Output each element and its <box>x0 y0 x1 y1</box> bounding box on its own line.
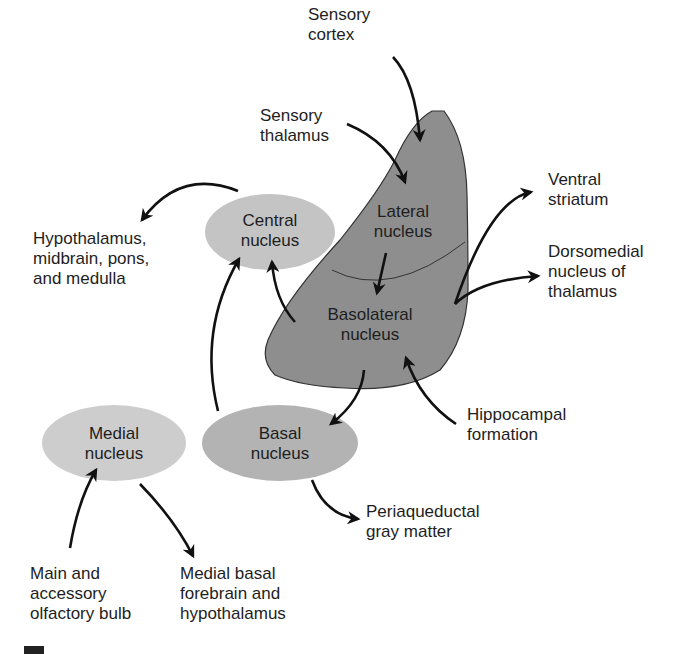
hippocampal-label: Hippocampal formation <box>467 405 566 445</box>
hypothalamus-label: Hypothalamus, midbrain, pons, and medull… <box>33 229 149 289</box>
olfactory-label: Main and accessory olfactory bulb <box>30 564 131 624</box>
central-nucleus-label: Central nucleus <box>225 211 315 251</box>
ventral-striatum-label: Ventral striatum <box>548 170 608 210</box>
medial-nucleus-label: Medial nucleus <box>69 424 159 464</box>
periaqueductal-label: Periaqueductal gray matter <box>366 502 479 542</box>
arrow-olfactory-to-medial <box>70 470 96 548</box>
arrow-medial-to-medial-basal <box>140 484 193 556</box>
basolateral-nucleus-label: Basolateral nucleus <box>315 305 425 345</box>
arrow-basal-to-central <box>211 259 239 411</box>
basal-nucleus-label: Basal nucleus <box>235 424 325 464</box>
arrow-basal-to-periaqueductal <box>312 480 358 519</box>
sensory-cortex-label: Sensory cortex <box>308 5 370 45</box>
figure-marker <box>24 646 44 654</box>
sensory-thalamus-label: Sensory thalamus <box>260 106 329 146</box>
lateral-nucleus-label: Lateral nucleus <box>363 202 443 242</box>
dorsomedial-label: Dorsomedial nucleus of thalamus <box>548 242 643 302</box>
medial-basal-label: Medial basal forebrain and hypothalamus <box>180 564 286 624</box>
